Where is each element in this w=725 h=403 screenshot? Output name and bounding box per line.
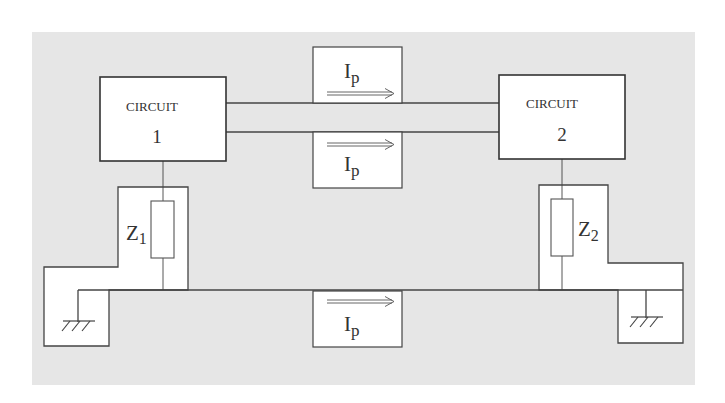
impedance-2-resistor	[551, 199, 573, 256]
circuit-2-block	[499, 75, 625, 159]
circuit-1-title: CIRCUIT	[126, 99, 178, 114]
circuit-1-block	[100, 77, 226, 161]
circuit-2-number: 2	[557, 124, 567, 145]
circuit-2-title: CIRCUIT	[526, 96, 578, 111]
circuit-1-number: 1	[152, 126, 162, 147]
common-mode-current-diagram: CIRCUIT 1 CIRCUIT 2 Z1 Z2 Ip Ip Ip	[0, 0, 725, 403]
impedance-1-resistor	[151, 201, 174, 258]
